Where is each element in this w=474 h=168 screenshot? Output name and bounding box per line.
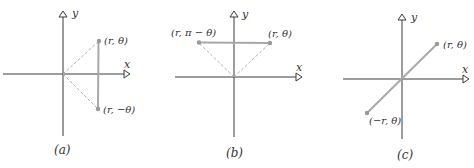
panel-b: y x (r, π − θ) (r, θ) (b) xyxy=(171,8,303,160)
dashed-ray xyxy=(63,41,99,74)
x-axis-label: x xyxy=(462,63,469,76)
point-label: (r, θ) xyxy=(268,28,292,39)
x-axis-label: x xyxy=(124,58,131,71)
dashed-ray xyxy=(63,74,98,109)
point-marker xyxy=(96,107,100,111)
point-marker xyxy=(268,41,272,45)
polar-symmetry-figure: y x (r, θ) (r, −θ) (a) y x (r, π − θ) (r… xyxy=(0,0,474,168)
point-label: (r, θ) xyxy=(104,35,128,46)
y-axis-arrow-icon xyxy=(59,11,67,17)
dashed-ray xyxy=(199,43,234,77)
panel-caption: (a) xyxy=(54,143,71,157)
point-label: (r, θ) xyxy=(443,39,467,50)
x-axis-arrow-icon xyxy=(296,73,302,81)
symmetry-segment xyxy=(199,43,270,44)
y-axis-arrow-icon xyxy=(230,11,238,17)
panel-c: y x (r, θ) (−r, θ) (c) xyxy=(343,11,469,162)
point-marker xyxy=(435,42,439,46)
x-axis-arrow-icon xyxy=(124,70,130,78)
point-marker xyxy=(197,40,201,44)
point-label: (r, π − θ) xyxy=(171,27,216,38)
x-axis-label: x xyxy=(296,61,303,74)
symmetry-segment xyxy=(98,41,99,109)
point-label: (−r, θ) xyxy=(369,115,401,126)
x-axis-arrow-icon xyxy=(463,75,469,83)
panel-caption: (b) xyxy=(226,146,243,160)
y-axis-label: y xyxy=(71,7,79,20)
panel-caption: (c) xyxy=(397,148,413,162)
point-marker xyxy=(97,39,101,43)
dashed-ray xyxy=(234,43,270,77)
y-axis-label: y xyxy=(410,11,418,24)
y-axis-label: y xyxy=(241,8,249,21)
point-label: (r, −θ) xyxy=(103,104,135,115)
panel-a: y x (r, θ) (r, −θ) (a) xyxy=(3,7,135,157)
y-axis-arrow-icon xyxy=(398,14,406,20)
